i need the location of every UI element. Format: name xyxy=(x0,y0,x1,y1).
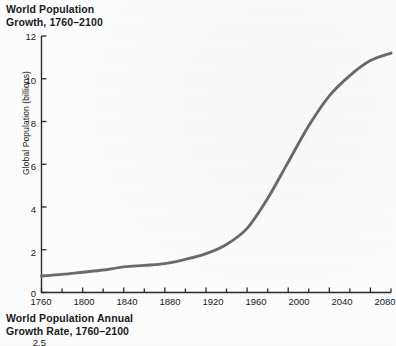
population-growth-chart: Global Population (billions) 12 10 8 6 4… xyxy=(0,0,396,312)
figure2-first-y-tick-label: 2.5 xyxy=(24,337,46,346)
figure2-title: World Population Annual Growth Rate, 176… xyxy=(6,312,133,337)
population-curve xyxy=(42,53,392,276)
x-axis-ticks xyxy=(42,288,392,293)
plot-area xyxy=(0,0,396,312)
y-axis-ticks xyxy=(42,36,47,293)
